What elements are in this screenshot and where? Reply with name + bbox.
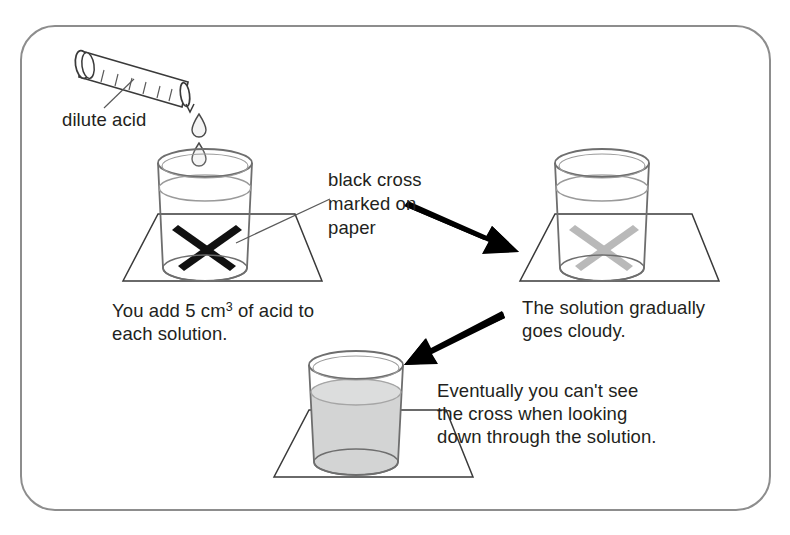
stage-2-cloudy	[520, 149, 719, 281]
diagram-canvas	[0, 0, 790, 535]
caption-solution-cloudy: The solution gradually goes cloudy.	[522, 296, 705, 342]
arrow-stage2-to-stage3	[404, 311, 505, 365]
liquid-surface-1	[159, 175, 251, 201]
caption-add-acid-line2: of acid to	[233, 300, 314, 321]
paper-square-1	[123, 214, 322, 281]
measuring-cylinder	[74, 50, 194, 112]
liquid-surface-2	[556, 175, 648, 201]
caption-cross-hidden: Eventually you can't see the cross when …	[437, 379, 657, 448]
caption-add-acid-superscript: 3	[226, 300, 233, 314]
label-dilute-acid: dilute acid	[62, 108, 146, 131]
beaker-3-rim	[309, 351, 403, 379]
stage-1-clear	[123, 149, 330, 281]
beaker-1-rim	[158, 149, 252, 177]
caption-add-acid-line1: You add 5 cm	[112, 300, 226, 321]
caption-add-acid-line3: each solution.	[112, 323, 228, 344]
figure-root: dilute acid black cross marked on paper …	[0, 0, 790, 535]
caption-add-acid: You add 5 cm3 of acid toeach solution.	[112, 296, 314, 345]
paper-square-2	[520, 214, 719, 281]
label-black-cross: black cross marked on paper	[328, 168, 422, 240]
beaker-2-rim	[555, 149, 649, 177]
liquid-surface-3	[311, 379, 401, 405]
